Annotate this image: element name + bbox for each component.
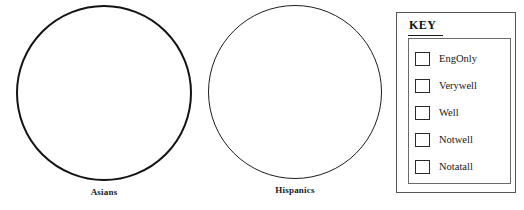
legend-item-label: Notatall: [439, 161, 473, 173]
legend-item-verywell[interactable]: Verywell: [409, 72, 510, 99]
legend-items-frame: EngOnly Verywell Well Notwell Notatall: [408, 38, 511, 184]
pie-circle-outline: [208, 5, 382, 179]
legend-item-notwell[interactable]: Notwell: [409, 126, 510, 153]
figure-canvas: Asians Hispanics KEY EngOnly Verywell We…: [0, 0, 524, 210]
pie-chart-asians[interactable]: Asians: [16, 5, 192, 210]
pie-chart-caption-hispanics: Hispanics: [208, 185, 382, 195]
legend-item-label: EngOnly: [439, 53, 477, 65]
legend-key-box: KEY EngOnly Verywell Well Notwell No: [396, 12, 516, 193]
legend-item-label: Notwell: [439, 134, 473, 146]
legend-swatch-icon: [415, 133, 430, 147]
pie-chart-caption-asians: Asians: [16, 187, 192, 197]
legend-title: KEY: [409, 18, 436, 32]
legend-item-label: Verywell: [439, 80, 477, 92]
legend-swatch-icon: [415, 52, 430, 66]
legend-swatch-icon: [415, 79, 430, 93]
legend-item-well[interactable]: Well: [409, 99, 510, 126]
legend-item-notatall[interactable]: Notatall: [409, 153, 510, 180]
legend-title-underline: [408, 35, 443, 36]
legend-swatch-icon: [415, 160, 430, 174]
legend-item-engonly[interactable]: EngOnly: [409, 45, 510, 72]
pie-chart-hispanics[interactable]: Hispanics: [208, 5, 382, 210]
legend-item-label: Well: [439, 107, 459, 119]
pie-circle-outline: [16, 5, 192, 181]
legend-swatch-icon: [415, 106, 430, 120]
